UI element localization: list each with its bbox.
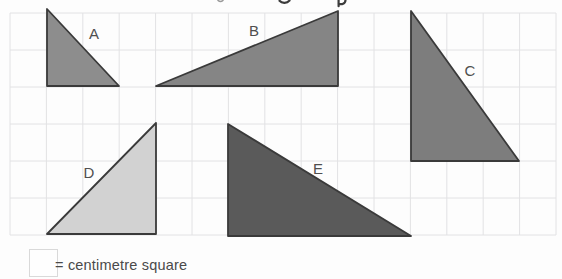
triangle-e — [228, 124, 411, 236]
triangle-label-a: A — [89, 25, 99, 42]
triangle-label-d: D — [84, 164, 95, 181]
triangle-label-b: B — [249, 22, 259, 39]
triangles-on-grid-diagram: ABCDE — [0, 0, 562, 279]
cropped-text-fragment — [218, 0, 346, 6]
triangle-label-c: C — [465, 62, 476, 79]
worksheet-figure: ABCDE = centimetre square — [0, 0, 562, 279]
triangle-c — [411, 11, 519, 161]
triangle-label-e: E — [313, 160, 323, 177]
triangle-d — [47, 123, 156, 234]
triangles-group: ABCDE — [47, 9, 519, 236]
triangle-b — [156, 11, 338, 86]
